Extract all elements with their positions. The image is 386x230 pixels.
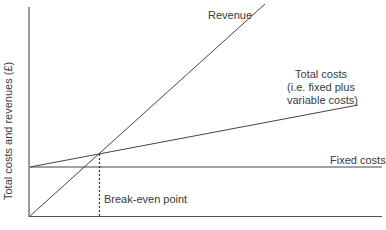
break-even-label: Break-even point [104, 193, 187, 206]
total-costs-label-line1: Total costs [287, 68, 355, 81]
total-costs-label-line3: variable costs) [287, 94, 355, 107]
break-even-chart [0, 0, 386, 230]
total-costs-label-line2: (i.e. fixed plus [287, 81, 355, 94]
revenue-line [30, 4, 265, 216]
total-costs-line [30, 105, 358, 167]
fixed-costs-label: Fixed costs [330, 154, 386, 167]
revenue-label: Revenue [208, 9, 252, 22]
total-costs-label: Total costs (i.e. fixed plus variable co… [287, 68, 355, 107]
y-axis-label: Total costs and revenues (£) [2, 62, 14, 200]
